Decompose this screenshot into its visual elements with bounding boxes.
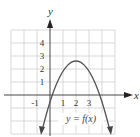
x-tick-label: 1 (61, 98, 66, 108)
function-label: y = f(x) (65, 113, 97, 125)
y-tick-label: 1 (40, 77, 45, 87)
function-graph: x y 1 2 3 4 -1 1 2 3 y = f(x) (0, 0, 140, 137)
x-tick-label: 3 (87, 98, 92, 108)
y-axis-arrow-icon (47, 19, 53, 28)
y-axis-label: y (47, 5, 53, 17)
x-axis-arrow-icon (124, 92, 133, 98)
y-tick-label: 2 (40, 64, 45, 74)
x-axis-label: x (133, 89, 139, 101)
y-tick-label: 3 (40, 51, 45, 61)
y-tick-label: 4 (40, 38, 45, 48)
x-tick-label: -1 (31, 98, 39, 108)
x-tick-label: 2 (74, 98, 79, 108)
